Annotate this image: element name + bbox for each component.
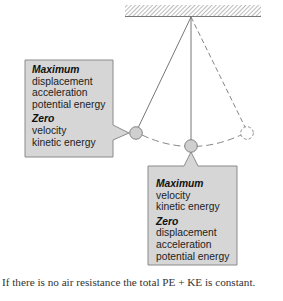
left-max-heading: Maximum <box>32 64 105 76</box>
bob-bottom <box>185 140 198 153</box>
bottom-zero-item: displacement <box>156 227 229 239</box>
left-zero-heading: Zero <box>32 113 105 125</box>
left-max-item: displacement <box>32 76 105 88</box>
left-box-text: Maximum displacement acceleration potent… <box>32 64 105 148</box>
string-left <box>138 17 191 128</box>
bottom-max-heading: Maximum <box>156 178 229 190</box>
bob-left <box>130 127 143 140</box>
ceiling-support <box>125 5 261 17</box>
caption: If there is no air resistance the total … <box>2 276 255 288</box>
bottom-box-text: Maximum velocity kinetic energy Zero dis… <box>156 178 229 262</box>
pendulum-diagram <box>0 0 283 301</box>
left-max-item: acceleration <box>32 87 105 99</box>
left-zero-item: kinetic energy <box>32 137 105 149</box>
bob-right-ghost <box>241 127 254 140</box>
string-right-dashed <box>191 17 245 127</box>
bottom-zero-item: potential energy <box>156 251 229 263</box>
left-zero-item: velocity <box>32 125 105 137</box>
bottom-zero-heading: Zero <box>156 216 229 228</box>
bottom-zero-item: acceleration <box>156 239 229 251</box>
left-max-item: potential energy <box>32 99 105 111</box>
bottom-max-item: velocity <box>156 190 229 202</box>
bottom-max-item: kinetic energy <box>156 201 229 213</box>
